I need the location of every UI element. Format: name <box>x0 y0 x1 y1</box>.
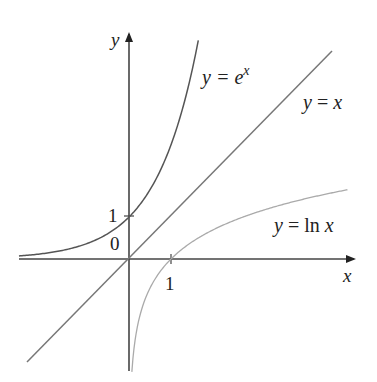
identity-label: y = x <box>301 91 342 114</box>
ln-label: y = ln x <box>272 214 334 237</box>
y-axis-label: y <box>109 29 120 50</box>
origin-label: 0 <box>110 233 120 254</box>
x-axis-label: x <box>342 265 352 286</box>
identity-line <box>27 51 332 362</box>
x-tick-1-label: 1 <box>165 273 175 294</box>
function-graph: y x 0 1 1 y = ex y = x y = ln x <box>0 0 377 382</box>
exp-label: y = ex <box>200 63 250 89</box>
y-tick-1-label: 1 <box>108 205 118 226</box>
